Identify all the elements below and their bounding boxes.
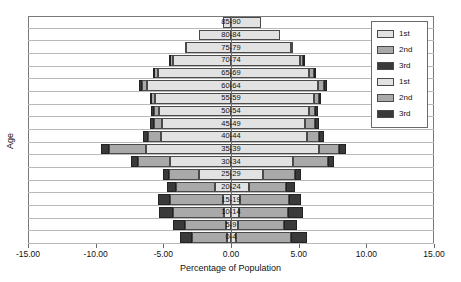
bar-segment-left [150, 93, 152, 104]
x-axis-tick [366, 244, 367, 248]
bar-segment-right [236, 232, 290, 243]
bar-segment-right [305, 118, 314, 129]
bar-segment-right [324, 80, 327, 91]
bar-segment-right [328, 156, 333, 167]
legend-swatch-icon [377, 30, 394, 38]
bar-segment-left [147, 80, 231, 91]
x-axis-tick-label: 0.00 [223, 249, 240, 259]
bar-segment-right [249, 182, 287, 193]
bar-segment-right [240, 194, 289, 205]
legend-label: 2nd [399, 94, 412, 102]
bar-segment-right [315, 106, 318, 117]
bar-segment-right [238, 220, 284, 231]
bar-segment-right [318, 80, 325, 91]
age-group-label: 75-79 [221, 43, 241, 52]
bar-segment-left [154, 118, 162, 129]
age-group-label: 30-34 [221, 157, 241, 166]
age-group-label: 40-44 [221, 131, 241, 140]
bar-segment-right [291, 42, 293, 53]
age-group-label: 50-54 [221, 106, 241, 115]
age-group-label: 5-9 [225, 220, 236, 229]
bar-segment-left [163, 169, 168, 180]
legend-item[interactable]: 3rd [377, 58, 427, 74]
age-group-label: 0-4 [225, 232, 236, 241]
chart-legend: 1st2nd3rd1st2nd3rd [371, 21, 428, 128]
bar-segment-right [291, 232, 307, 243]
bar-segment-right [319, 144, 339, 155]
legend-item[interactable]: 1st [377, 74, 427, 90]
bar-segment-left [158, 194, 170, 205]
x-axis-tick [434, 244, 435, 248]
bar-segment-left [109, 144, 146, 155]
bar-segment-left [167, 182, 175, 193]
legend-label: 3rd [399, 110, 411, 118]
y-axis-title: Age [5, 133, 15, 149]
age-group-label: 70-74 [221, 55, 241, 64]
bar-segment-right [263, 169, 294, 180]
bar-segment-left [159, 207, 173, 218]
bar-segment-right [286, 182, 294, 193]
x-axis-title: Percentage of Population [0, 263, 461, 273]
x-axis-tick-label: -10.00 [84, 249, 108, 259]
age-group-label: 35-39 [221, 144, 241, 153]
bar-segment-left [185, 42, 187, 53]
bar-segment-left [101, 144, 109, 155]
legend-swatch-icon [377, 46, 394, 54]
x-axis-tick [299, 244, 300, 248]
bar-segment-right [231, 144, 319, 155]
legend-label: 1st [399, 30, 410, 38]
legend-item[interactable]: 2nd [377, 90, 427, 106]
legend-item[interactable]: 1st [377, 26, 427, 42]
bar-segment-right [231, 68, 309, 79]
x-axis-tick [96, 244, 97, 248]
bar-segment-left [173, 207, 224, 218]
bar-segment-left [146, 144, 231, 155]
age-group-label: 20-24 [221, 182, 241, 191]
x-axis-tick-label: -15.00 [16, 249, 40, 259]
x-axis-tick-label: 5.00 [290, 249, 307, 259]
bar-segment-right [231, 118, 305, 129]
age-group-label: 15-19 [221, 195, 241, 204]
bar-segment-right [293, 156, 328, 167]
age-group-label: 80-84 [221, 30, 241, 39]
bar-segment-left [148, 131, 160, 142]
bar-segment-left [155, 93, 231, 104]
bar-segment-right [295, 169, 302, 180]
x-axis-tick [28, 244, 29, 248]
bar-segment-left [143, 131, 148, 142]
bar-segment-left [185, 220, 226, 231]
bar-segment-right [289, 194, 301, 205]
bar-segment-left [173, 220, 185, 231]
x-axis-tick [231, 244, 232, 248]
age-group-label: 45-49 [221, 119, 241, 128]
age-group-label: 10-14 [221, 207, 241, 216]
bar-segment-left [131, 156, 138, 167]
legend-label: 1st [399, 78, 410, 86]
x-axis-tick-label: -5.00 [154, 249, 173, 259]
bar-segment-right [303, 55, 305, 66]
bar-segment-right [231, 106, 309, 117]
age-group-label: 65-69 [221, 68, 241, 77]
bar-segment-right [307, 131, 319, 142]
x-axis-tick-label: 15.00 [423, 249, 444, 259]
bar-segment-right [231, 131, 307, 142]
bar-segment-right [314, 68, 316, 79]
legend-label: 3rd [399, 62, 411, 70]
bar-segment-left [192, 232, 227, 243]
age-group-label: 60-64 [221, 81, 241, 90]
legend-item[interactable]: 2nd [377, 42, 427, 58]
bar-segment-right [339, 144, 346, 155]
bar-segment-left [154, 106, 159, 117]
legend-item[interactable]: 3rd [377, 106, 427, 122]
legend-swatch-icon [377, 62, 394, 70]
bar-segment-left [139, 80, 142, 91]
bar-segment-left [150, 118, 154, 129]
bar-segment-right [231, 80, 318, 91]
legend-swatch-icon [377, 94, 394, 102]
bar-segment-left [180, 232, 192, 243]
bar-segment-right [231, 55, 300, 66]
x-axis-tick [163, 244, 164, 248]
bar-segment-right [319, 131, 324, 142]
bar-segment-left [169, 55, 171, 66]
age-group-label: 55-59 [221, 93, 241, 102]
